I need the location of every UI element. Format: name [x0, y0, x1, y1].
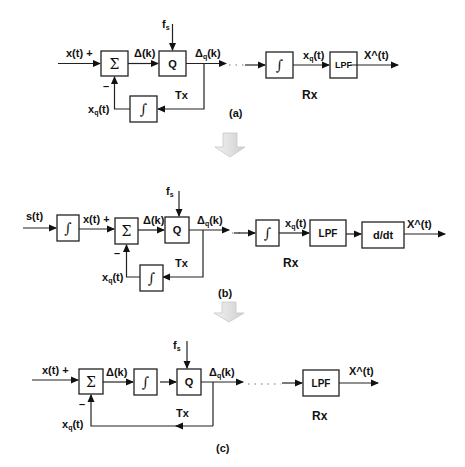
quantizer-symbol: Q [173, 224, 182, 236]
delta-q-label: Δq(k) [195, 47, 221, 61]
transition-arrow-a-to-b [215, 133, 245, 157]
feedback-label: xq(t) [62, 418, 84, 432]
lpf-label: LPF [312, 378, 331, 389]
rx-label: Rx [312, 409, 328, 423]
down-arrow-icon [215, 133, 245, 157]
diagram-a: x(t) + Σ – Δ(k) Q fs Δq(k) ∫ xq(t) Tx ∫ … [58, 18, 398, 122]
down-arrow-icon [214, 302, 244, 322]
rx-label: Rx [283, 256, 299, 270]
feedback-label: xq(t) [102, 271, 124, 285]
caption-a: (a) [229, 107, 243, 119]
minus-sign: – [103, 80, 109, 92]
tx-label: Tx [175, 89, 189, 101]
tx-label: Tx [175, 257, 189, 269]
input-label: x(t) + [66, 47, 93, 59]
output-label: X^(t) [349, 365, 374, 377]
feedback-wire-out [127, 245, 141, 277]
delta-modulation-diagrams: x(t) + Σ – Δ(k) Q fs Δq(k) ∫ xq(t) Tx ∫ … [0, 0, 465, 467]
lpf-label: LPF [319, 228, 338, 239]
source-label: s(t) [26, 210, 43, 222]
caption-b: (b) [218, 287, 232, 299]
delta-q-label: Δq(k) [197, 214, 223, 228]
rx-label: Rx [302, 88, 318, 102]
tx-integrator-symbol: ∫ [148, 270, 155, 286]
sampling-label: fs [173, 339, 181, 352]
delta-label: Δ(k) [134, 47, 156, 59]
pre-integrator-symbol: ∫ [64, 220, 71, 236]
feedback-wire-out [115, 77, 131, 109]
summer-symbol: Σ [110, 56, 120, 72]
output-label: X^(t) [407, 218, 432, 230]
rx-integrator-symbol: ∫ [264, 225, 271, 241]
delta-q-label: Δq(k) [209, 366, 235, 380]
lpf-label: LPF [335, 60, 353, 70]
tx-label: Tx [176, 407, 190, 419]
quantizer-symbol: Q [168, 58, 177, 70]
quantizer-symbol: Q [185, 376, 194, 388]
input-label: x(t) + [42, 364, 69, 376]
feedback-wire-out [91, 395, 178, 426]
rx-integrator-symbol: ∫ [276, 57, 283, 73]
diagram-c: x(t) + Σ – Δ(k) ∫ Q fs Δq(k) xq(t) Tx LP… [32, 339, 378, 454]
transition-arrow-b-to-c [214, 302, 244, 322]
sampling-label: fs [162, 18, 170, 31]
rx-xq-label: xq(t) [285, 217, 307, 231]
summer-symbol: Σ [86, 374, 96, 390]
minus-sign: – [114, 247, 120, 259]
input-label: x(t) + [83, 213, 110, 225]
caption-c: (c) [216, 442, 230, 454]
sampling-label: fs [166, 185, 174, 198]
delta-label: Δ(k) [143, 214, 165, 226]
tx-integrator-symbol: ∫ [140, 101, 147, 117]
output-label: X^(t) [364, 49, 389, 61]
integrator-symbol: ∫ [142, 374, 149, 390]
minus-sign: – [79, 398, 85, 410]
diagram-b: s(t) ∫ x(t) + Σ – Δ(k) Q fs Δq(k) ∫ xq(t… [23, 185, 445, 299]
feedback-label: xq(t) [88, 103, 110, 117]
rx-xq-label: xq(t) [303, 49, 325, 63]
summer-symbol: Σ [122, 223, 132, 239]
delta-label: Δ(k) [106, 366, 128, 378]
differentiator-label: d/dt [373, 229, 393, 241]
